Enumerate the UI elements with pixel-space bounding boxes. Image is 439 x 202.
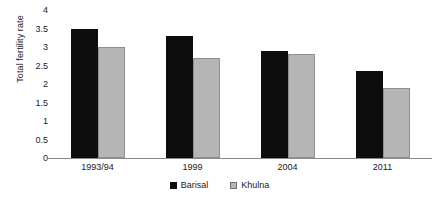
bar-group [261,10,315,158]
x-axis-tick-label: 1993/94 [50,161,145,175]
y-axis-tick-label: 1 [28,117,48,126]
legend-swatch-icon [170,182,177,189]
chart-legend: BarisalKhulna [0,181,439,190]
y-axis-tick-label: 0 [28,154,48,163]
y-axis-tick-label: 4 [28,6,48,15]
y-axis-tick-label: 2 [28,80,48,89]
bar-groups [50,10,430,158]
x-axis-tick-label: 2011 [335,161,430,175]
bar-khulna-2004 [288,54,315,158]
plot-area [50,10,430,158]
x-axis-line [48,158,432,159]
y-axis-tick-label: 0.5 [28,135,48,144]
bar-chart: Total fertility rate 00.511.522.533.54 1… [0,0,439,202]
bar-barisal-2004 [261,51,288,158]
y-axis-tick-label: 2.5 [28,61,48,70]
x-axis-tick-label: 1999 [145,161,240,175]
y-axis-tick-label: 3 [28,43,48,52]
y-axis-tick-label: 1.5 [28,98,48,107]
bar-khulna-2011 [383,88,410,158]
legend-item-barisal[interactable]: Barisal [170,181,209,190]
bar-khulna-1999 [193,58,220,158]
bar-barisal-2011 [356,71,383,158]
bar-group [356,10,410,158]
bar-group [71,10,125,158]
x-axis-tick-label: 2004 [240,161,335,175]
bar-barisal-1993-94 [71,29,98,159]
bar-barisal-1999 [166,36,193,158]
y-axis-title: Total fertility rate [15,0,25,109]
legend-label: Khulna [241,181,269,190]
bar-khulna-1993-94 [98,47,125,158]
y-axis-tick-label: 3.5 [28,24,48,33]
legend-swatch-icon [230,182,237,189]
y-axis-tick-labels: 00.511.522.533.54 [28,10,48,158]
legend-label: Barisal [181,181,209,190]
legend-item-khulna[interactable]: Khulna [230,181,269,190]
x-axis-tick-labels: 1993/94199920042011 [50,161,430,175]
bar-group [166,10,220,158]
